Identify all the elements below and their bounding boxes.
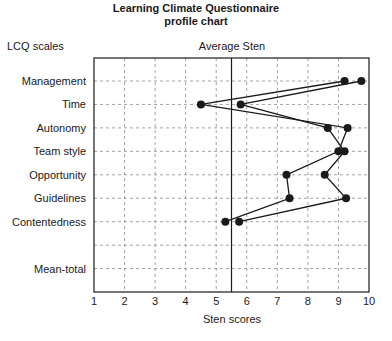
scale-labels: ManagementTimeAutonomyTeam styleOpportun… — [12, 75, 86, 275]
scale-label: Mean-total — [34, 263, 86, 275]
x-tick-label: 7 — [274, 295, 280, 307]
x-tick-label: 9 — [335, 295, 341, 307]
x-tick-labels: 12345678910 — [91, 295, 375, 307]
data-point-marker — [286, 194, 294, 202]
scale-label: Autonomy — [36, 122, 86, 134]
chart-canvas: Learning Climate Questionnaire profile c… — [0, 0, 392, 341]
scale-label: Time — [62, 98, 86, 110]
top-label-average-sten: Average Sten — [199, 40, 265, 52]
x-tick-label: 4 — [183, 295, 189, 307]
x-tick-label: 2 — [121, 295, 127, 307]
x-tick-label: 3 — [152, 295, 158, 307]
data-point-marker — [221, 218, 229, 226]
scale-label: Contentedness — [12, 216, 86, 228]
x-tick-label: 6 — [244, 295, 250, 307]
scale-label: Guidelines — [34, 192, 86, 204]
x-tick-label: 10 — [363, 295, 375, 307]
data-point-marker — [321, 171, 329, 179]
scale-label: Management — [22, 75, 86, 87]
y-axis-label: LCQ scales — [7, 40, 64, 52]
data-point-marker — [357, 77, 365, 85]
data-point-marker — [237, 100, 245, 108]
data-point-marker — [283, 171, 291, 179]
data-point-marker — [344, 124, 352, 132]
x-tick-label: 5 — [213, 295, 219, 307]
x-axis-label: Sten scores — [203, 313, 262, 325]
data-point-marker — [235, 218, 243, 226]
lcq-profile-chart: Learning Climate Questionnaire profile c… — [0, 0, 392, 341]
x-tick-label: 8 — [305, 295, 311, 307]
data-point-marker — [197, 100, 205, 108]
x-tick-label: 1 — [91, 295, 97, 307]
data-point-marker — [341, 147, 349, 155]
scale-label: Team style — [33, 145, 86, 157]
chart-subtitle: profile chart — [164, 15, 228, 27]
data-point-marker — [342, 194, 350, 202]
scale-label: Opportunity — [29, 169, 86, 181]
chart-title: Learning Climate Questionnaire — [113, 2, 279, 14]
data-point-marker — [324, 124, 332, 132]
